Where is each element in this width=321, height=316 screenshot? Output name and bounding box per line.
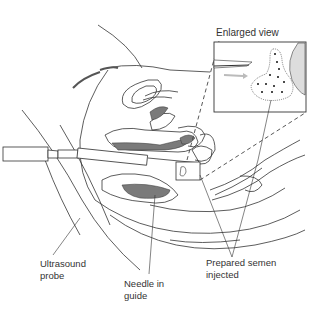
cervix-box (176, 162, 200, 180)
label-prepared-semen: Prepared semen injected (206, 257, 276, 281)
inset-title: Enlarged view (216, 27, 279, 39)
label-needle-in-guide: Needle in guide (124, 278, 164, 302)
diagram: Enlarged view Ultrasound probe Needle in… (0, 0, 321, 316)
uterine-shading (112, 138, 190, 150)
enlarged-view-inset (214, 42, 306, 160)
abdominal-line (98, 25, 142, 68)
label-ultrasound-probe: Ultrasound probe (40, 258, 86, 282)
dash-line-bottom (200, 113, 305, 180)
